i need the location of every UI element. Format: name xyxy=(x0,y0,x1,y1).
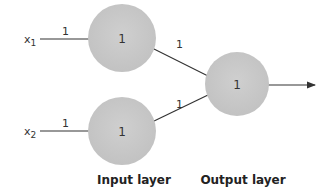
weight-x1: 1 xyxy=(62,25,69,38)
input-label-x1: x1 xyxy=(24,33,36,48)
output-layer-label: Output layer xyxy=(200,173,285,187)
weight-x2: 1 xyxy=(62,117,69,130)
input-node-1-value: 1 xyxy=(118,32,126,46)
weight-in1-out: 1 xyxy=(176,38,183,51)
network-diagram: x1 x2 1 1 1 1 1 1 1 Input layer Output l… xyxy=(0,0,326,188)
input-label-x2: x2 xyxy=(24,125,36,140)
edge-in1-out xyxy=(152,48,208,76)
weight-in2-out: 1 xyxy=(176,98,183,111)
output-node-value: 1 xyxy=(233,78,241,92)
input-layer-label: Input layer xyxy=(97,173,171,187)
input-node-2-value: 1 xyxy=(118,125,126,139)
